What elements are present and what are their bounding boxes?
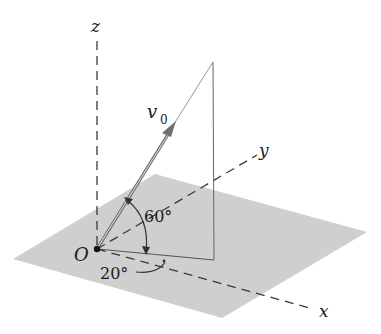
x-axis-label: x bbox=[319, 301, 329, 321]
vector-extension-line bbox=[174, 62, 213, 124]
elevation-angle-label: 60° bbox=[144, 207, 172, 226]
vector-label: v bbox=[147, 101, 157, 122]
azimuth-angle-label: 20° bbox=[100, 264, 128, 283]
z-axis-label: z bbox=[90, 16, 101, 36]
azimuth-arc-end-dot bbox=[163, 260, 166, 263]
horizontal-plane bbox=[13, 174, 367, 318]
vector-label-subscript: 0 bbox=[160, 113, 168, 127]
origin-point bbox=[94, 246, 100, 252]
origin-label: O bbox=[74, 244, 89, 265]
y-axis-label: y bbox=[258, 140, 269, 160]
projectile-vector-diagram: z y x O v 0 60° 20° bbox=[0, 0, 381, 334]
